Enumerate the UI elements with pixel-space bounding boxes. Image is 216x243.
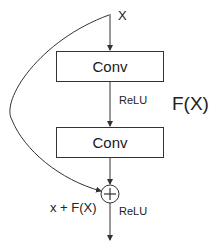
conv-layer-2-label: Conv xyxy=(92,134,127,151)
conv-layer-1: Conv xyxy=(56,51,164,82)
relu-label-middle: ReLU xyxy=(119,95,147,106)
conv-layer-1-label: Conv xyxy=(92,58,127,75)
diagram-connectors xyxy=(0,0,216,243)
conv-layer-2: Conv xyxy=(56,127,164,158)
residual-block-diagram: X Conv ReLU F(X) Conv x + F(X) ReLU xyxy=(0,0,216,243)
residual-function-label: F(X) xyxy=(172,94,209,113)
input-label: X xyxy=(118,9,127,22)
sum-label: x + F(X) xyxy=(50,201,97,214)
relu-label-output: ReLU xyxy=(119,206,147,217)
add-node-icon xyxy=(101,185,119,203)
skip-connection-arrow xyxy=(10,15,109,191)
